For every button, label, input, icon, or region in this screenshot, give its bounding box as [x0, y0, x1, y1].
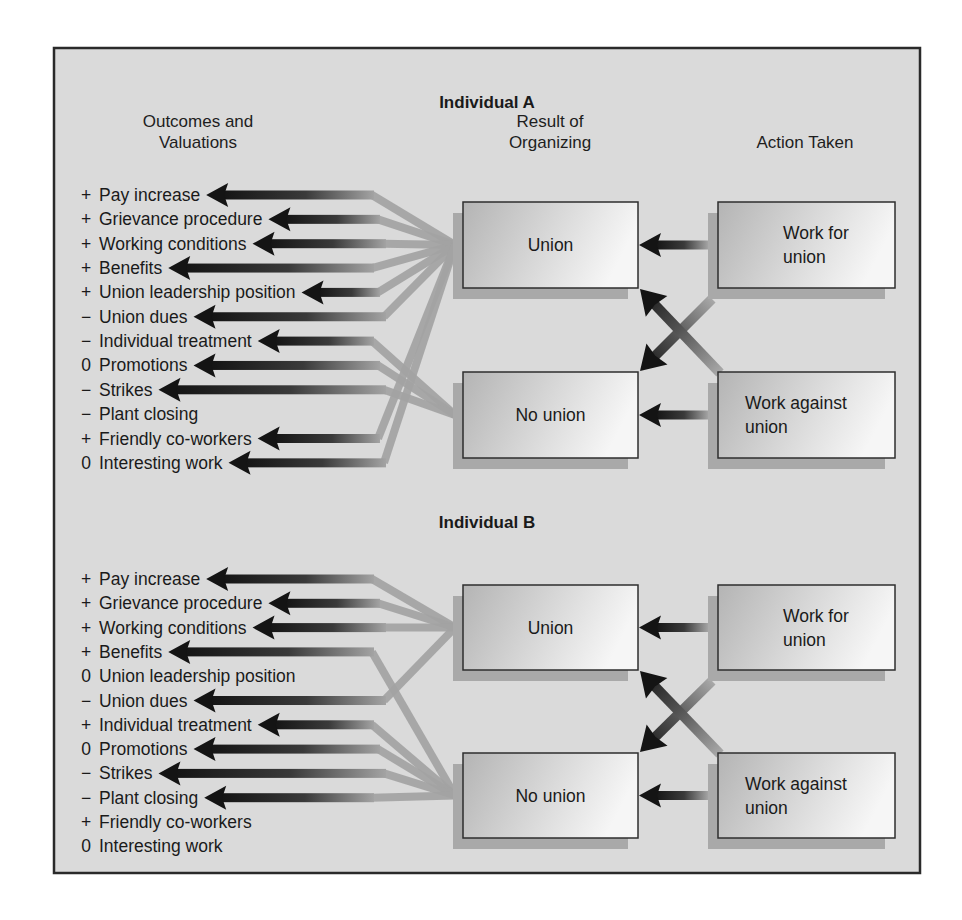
column-header-result: Result of: [516, 112, 583, 131]
column-header-outcomes: Outcomes and: [143, 112, 254, 131]
section-individual-a-outcome-union-dues-sign: −: [81, 307, 91, 327]
section-individual-b-outcome-plant-closing-sign: −: [81, 788, 91, 808]
section-individual-b-outcome-working-conditions-sign: +: [81, 618, 91, 638]
section-individual-b-box-work-against-union: [718, 753, 895, 838]
section-individual-a-outcome-union-leadership-position-label: Union leadership position: [99, 282, 296, 302]
section-individual-b-outcome-plant-closing-connector: [372, 796, 455, 798]
section-individual-b-outcome-union-leadership-position-label: Union leadership position: [99, 666, 296, 686]
section-individual-a-outcome-interesting-work-sign: 0: [81, 453, 91, 473]
section-individual-a-box-work-for-union-label: union: [783, 247, 826, 267]
section-individual-a-outcome-benefits-label: Benefits: [99, 258, 162, 278]
section-individual-a-outcome-plant-closing-sign: −: [81, 404, 91, 424]
section-individual-a-outcome-strikes-label: Strikes: [99, 380, 153, 400]
section-individual-a-outcome-union-dues-label: Union dues: [99, 307, 188, 327]
section-individual-a-outcome-individual-treatment-sign: −: [81, 331, 91, 351]
section-individual-a-outcome-friendly-co-workers-sign: +: [81, 429, 91, 449]
section-individual-b-box-union-label: Union: [528, 618, 574, 638]
section-individual-b-box-work-against-union-label: Work against: [745, 774, 847, 794]
section-individual-b-title: Individual B: [439, 513, 535, 532]
section-individual-b-outcome-union-dues-sign: −: [81, 691, 91, 711]
section-individual-b-outcome-union-leadership-position-sign: 0: [81, 666, 91, 686]
section-individual-b-outcome-pay-increase-label: Pay increase: [99, 569, 200, 589]
section-individual-a-outcome-individual-treatment-label: Individual treatment: [99, 331, 252, 351]
section-individual-a-box-union-label: Union: [528, 235, 574, 255]
section-individual-b-outcome-grievance-procedure-label: Grievance procedure: [99, 593, 262, 613]
column-header-result: Organizing: [509, 133, 591, 152]
section-individual-b-outcome-working-conditions-label: Working conditions: [99, 618, 247, 638]
section-individual-a-box-no-union-label: No union: [515, 405, 585, 425]
section-individual-a-outcome-interesting-work-label: Interesting work: [99, 453, 223, 473]
section-individual-b-outcome-strikes-sign: −: [81, 763, 91, 783]
section-individual-b-box-no-union-label: No union: [515, 786, 585, 806]
union-organizing-diagram: Outcomes andValuationsResult ofOrganizin…: [0, 0, 962, 920]
section-individual-a-outcome-plant-closing-label: Plant closing: [99, 404, 198, 424]
section-individual-a-outcome-pay-increase-sign: +: [81, 185, 91, 205]
section-individual-a-outcome-strikes-sign: −: [81, 380, 91, 400]
section-individual-b-outcome-plant-closing-label: Plant closing: [99, 788, 198, 808]
section-individual-a-outcome-working-conditions-label: Working conditions: [99, 234, 247, 254]
section-individual-b-box-work-for-union-label: union: [783, 630, 826, 650]
section-individual-a-outcome-promotions-sign: 0: [81, 355, 91, 375]
section-individual-b-outcome-benefits-sign: +: [81, 642, 91, 662]
section-individual-b-box-work-against-union-label: union: [745, 798, 788, 818]
section-individual-a-outcome-grievance-procedure-label: Grievance procedure: [99, 209, 262, 229]
section-individual-a-outcome-benefits-sign: +: [81, 258, 91, 278]
section-individual-b-box-work-for-union-label: Work for: [783, 606, 849, 626]
section-individual-a-title: Individual A: [439, 93, 535, 112]
section-individual-b-outcome-individual-treatment-sign: +: [81, 715, 91, 735]
section-individual-b-outcome-friendly-co-workers-label: Friendly co-workers: [99, 812, 252, 832]
section-individual-b-outcome-promotions-sign: 0: [81, 739, 91, 759]
column-header-outcomes: Valuations: [159, 133, 237, 152]
column-header-action: Action Taken: [756, 133, 853, 152]
section-individual-b-outcome-interesting-work-label: Interesting work: [99, 836, 223, 856]
section-individual-a-outcome-promotions-label: Promotions: [99, 355, 188, 375]
section-individual-b-outcome-individual-treatment-label: Individual treatment: [99, 715, 252, 735]
section-individual-b-outcome-benefits-label: Benefits: [99, 642, 162, 662]
section-individual-a-box-work-for-union: [718, 202, 895, 288]
section-individual-b-outcome-pay-increase-sign: +: [81, 569, 91, 589]
section-individual-b-box-work-for-union: [718, 585, 895, 670]
section-individual-b-outcome-union-dues-label: Union dues: [99, 691, 188, 711]
section-individual-b-outcome-friendly-co-workers-sign: +: [81, 812, 91, 832]
section-individual-a-outcome-union-leadership-position-sign: +: [81, 282, 91, 302]
section-individual-a-outcome-friendly-co-workers-label: Friendly co-workers: [99, 429, 252, 449]
section-individual-b-outcome-strikes-label: Strikes: [99, 763, 153, 783]
section-individual-a-box-work-against-union-label: Work against: [745, 393, 847, 413]
section-individual-a-outcome-working-conditions-sign: +: [81, 234, 91, 254]
section-individual-a-box-work-for-union-label: Work for: [783, 223, 849, 243]
section-individual-b-outcome-promotions-label: Promotions: [99, 739, 188, 759]
section-individual-b-outcome-interesting-work-sign: 0: [81, 836, 91, 856]
section-individual-b-outcome-grievance-procedure-sign: +: [81, 593, 91, 613]
section-individual-a-outcome-grievance-procedure-sign: +: [81, 209, 91, 229]
section-individual-a-outcome-pay-increase-label: Pay increase: [99, 185, 200, 205]
section-individual-a-box-work-against-union-label: union: [745, 417, 788, 437]
section-individual-a-box-work-against-union: [718, 372, 895, 458]
